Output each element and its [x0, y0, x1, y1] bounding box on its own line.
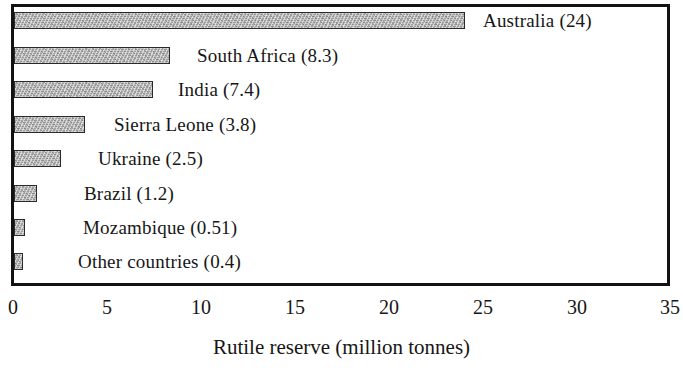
bar-label-india: India (7.4) [178, 79, 260, 101]
x-tick-15: 15 [285, 294, 305, 320]
bar-label-sierra-leone: Sierra Leone (3.8) [114, 114, 256, 136]
bar-label-brazil: Brazil (1.2) [84, 183, 174, 205]
x-tick-25: 25 [473, 294, 493, 320]
bar-label-australia: Australia (24) [483, 10, 592, 32]
x-axis-title: Rutile reserve (million tonnes) [0, 333, 683, 361]
bar-row: Sierra Leone (3.8) [14, 113, 670, 148]
bar-row: Brazil (1.2) [14, 182, 670, 217]
bar-row: India (7.4) [14, 78, 670, 113]
x-tick-0: 0 [8, 294, 18, 320]
bar-row: Australia (24) [14, 9, 670, 44]
bar-row: Ukraine (2.5) [14, 147, 670, 182]
x-tick-30: 30 [567, 294, 587, 320]
bar-sierra-leone [14, 116, 85, 133]
x-tick-10: 10 [191, 294, 211, 320]
bar-row: Other countries (0.4) [14, 250, 670, 285]
bar-row: South Africa (8.3) [14, 44, 670, 79]
bar-label-other-countries: Other countries (0.4) [78, 251, 241, 273]
bar-brazil [14, 185, 37, 202]
rutile-reserve-bar-chart: Australia (24) South Africa (8.3) India … [0, 0, 683, 368]
bar-india [14, 81, 153, 98]
x-tick-35: 35 [660, 294, 680, 320]
bar-row: Mozambique (0.51) [14, 216, 670, 251]
bar-south-africa [14, 47, 170, 64]
bars-layer: Australia (24) South Africa (8.3) India … [14, 7, 670, 286]
bar-ukraine [14, 150, 61, 167]
bar-label-ukraine: Ukraine (2.5) [98, 148, 203, 170]
bar-australia [14, 12, 465, 29]
x-tick-5: 5 [102, 294, 112, 320]
x-tick-20: 20 [379, 294, 399, 320]
bar-label-south-africa: South Africa (8.3) [197, 45, 338, 67]
bar-mozambique [14, 219, 25, 236]
bar-label-mozambique: Mozambique (0.51) [83, 217, 237, 239]
bar-other-countries [14, 253, 23, 270]
x-axis-tick-labels: 0 5 10 15 20 25 30 35 [0, 294, 683, 322]
